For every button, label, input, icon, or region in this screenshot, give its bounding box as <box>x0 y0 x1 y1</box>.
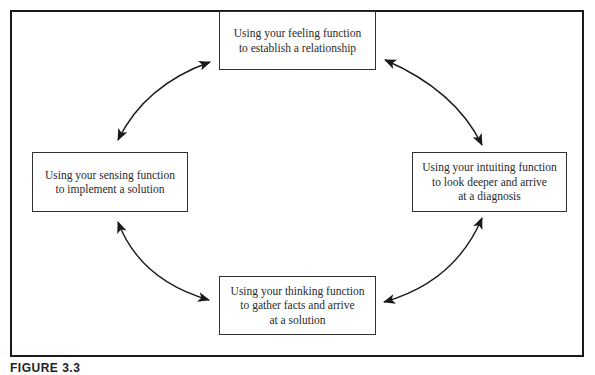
node-text-line: Using your intuiting function <box>422 160 556 175</box>
node-text-line: to gather facts and arrive <box>231 298 365 313</box>
figure-caption: FIGURE 3.3 <box>10 361 80 375</box>
arrow-top-right <box>385 60 482 145</box>
arrow-right-bottom <box>384 218 482 302</box>
arrow-bottom-left <box>118 222 209 300</box>
node-text-line: at a diagnosis <box>422 189 556 204</box>
node-intuiting-function: Using your intuiting function to look de… <box>412 152 567 212</box>
node-text-line: at a solution <box>231 313 365 328</box>
node-feeling-function: Using your feeling function to establish… <box>219 11 376 70</box>
node-thinking-function: Using your thinking function to gather f… <box>219 276 376 335</box>
arrow-left-top <box>118 62 210 140</box>
node-text-line: to implement a solution <box>45 182 175 197</box>
node-text-line: Using your sensing function <box>45 168 175 183</box>
node-text-line: to look deeper and arrive <box>422 175 556 190</box>
node-text-line: Using your feeling function <box>234 26 361 41</box>
node-sensing-function: Using your sensing function to implement… <box>32 152 188 212</box>
node-text-line: Using your thinking function <box>231 284 365 299</box>
node-text-line: to establish a relationship <box>234 41 361 56</box>
